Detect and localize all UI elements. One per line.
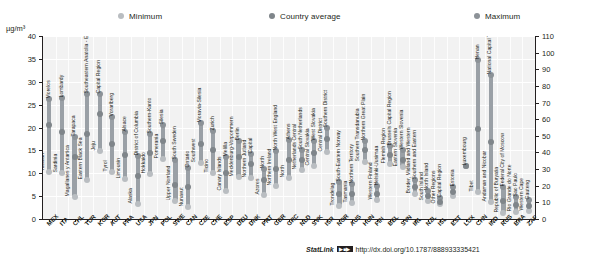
x-tick-mark [138, 219, 139, 222]
y-tick-mark-right [536, 186, 539, 187]
y-tick-mark-right [536, 119, 539, 120]
legend-label-maximum: Maximum [485, 12, 520, 21]
legend-dot-maximum [474, 13, 480, 19]
x-tick-mark [201, 219, 202, 222]
statlink-badge-icon: ▶■▶ [337, 246, 353, 252]
y-tick-mark-left [39, 219, 42, 220]
y-tick-mark-right [536, 69, 539, 70]
y-tick-label-left: 5 [14, 192, 36, 201]
legend-label-country-average: Country average [280, 12, 341, 21]
gridline [43, 105, 535, 106]
data-point-avg [349, 191, 355, 197]
x-tick-mark [327, 219, 328, 222]
x-tick-mark [503, 219, 504, 222]
legend-dot-minimum [118, 13, 124, 19]
y-tick-label-left: 10 [14, 169, 36, 178]
data-point-avg [488, 139, 494, 145]
data-point-avg [198, 141, 204, 147]
y-tick-mark-right [536, 103, 539, 104]
x-tick-mark [377, 219, 378, 222]
y-tick-label-left: 20 [14, 124, 36, 133]
y-tick-mark-left [39, 173, 42, 174]
y-tick-mark-left [39, 196, 42, 197]
x-tick-mark [188, 219, 189, 222]
data-point-min [261, 192, 267, 198]
y-tick-label-left: 15 [14, 146, 36, 155]
gridline [43, 59, 535, 60]
x-tick-mark [276, 219, 277, 222]
range-bar [98, 94, 102, 152]
x-tick-mark [478, 219, 479, 222]
data-point-min [122, 176, 128, 182]
y-tick-mark-right [536, 53, 539, 54]
data-point-min [160, 156, 166, 162]
x-tick-mark [403, 219, 404, 222]
data-point-avg [160, 138, 166, 144]
y-tick-label-left: 35 [14, 55, 36, 64]
data-point-avg [475, 126, 481, 132]
x-tick-mark [226, 219, 227, 222]
data-point-avg [362, 147, 368, 153]
data-point-avg [210, 147, 216, 153]
x-tick-mark [415, 219, 416, 222]
x-tick-mark [150, 219, 151, 222]
band-separator [220, 36, 221, 219]
y-tick-mark-right [536, 36, 539, 37]
y-tick-label-right: 90 [542, 65, 566, 74]
data-point-min [349, 200, 355, 206]
band-separator [106, 36, 107, 219]
y-tick-mark-right [536, 152, 539, 153]
data-point-avg [248, 161, 254, 167]
legend-item-maximum: Maximum [474, 12, 520, 21]
y-tick-mark-right [536, 169, 539, 170]
band-separator [459, 36, 460, 219]
y-tick-label-right: 110 [542, 32, 566, 41]
x-tick-mark [125, 219, 126, 222]
y-tick-mark-left [39, 105, 42, 106]
x-tick-mark [302, 219, 303, 222]
statlink-url[interactable]: http://dx.doi.org/10.1787/888933335421 [356, 246, 480, 253]
y-tick-label-right: 30 [542, 165, 566, 174]
x-tick-mark [352, 219, 353, 222]
y-tick-label-right: 70 [542, 99, 566, 108]
gridline [43, 82, 535, 83]
data-point-min [311, 163, 317, 169]
data-point-min [84, 177, 90, 183]
data-point-min [336, 203, 342, 209]
data-point-min [185, 204, 191, 210]
y-tick-mark-right [536, 86, 539, 87]
x-tick-mark [453, 219, 454, 222]
x-tick-mark [163, 219, 164, 222]
statlink-label: StatLink [306, 246, 334, 253]
x-tick-mark [314, 219, 315, 222]
data-point-avg [437, 199, 443, 205]
band-separator [245, 36, 246, 219]
x-tick-mark [75, 219, 76, 222]
x-tick-mark [100, 219, 101, 222]
data-point-avg [122, 152, 128, 158]
data-point-avg [97, 111, 103, 117]
data-point-avg [135, 173, 141, 179]
data-point-min [299, 167, 305, 173]
x-tick-mark [516, 219, 517, 222]
plot-area: MorelosYucatanLombardySardiniaTarapacaMa… [43, 36, 535, 219]
x-tick-mark [365, 219, 366, 222]
data-point-min [324, 149, 330, 155]
x-tick-mark [491, 219, 492, 222]
y-tick-label-left: 30 [14, 78, 36, 87]
legend-dot-country-average [269, 13, 275, 19]
x-tick-mark [428, 219, 429, 222]
gridline [43, 196, 535, 197]
x-tick-mark [466, 219, 467, 222]
band-separator [194, 36, 195, 219]
data-point-min [72, 194, 78, 200]
y-tick-mark-left [39, 59, 42, 60]
x-tick-mark [62, 219, 63, 222]
x-tick-mark [239, 219, 240, 222]
y-axis-left-line [42, 36, 43, 219]
y-tick-mark-left [39, 150, 42, 151]
data-point-avg [526, 203, 532, 209]
y-tick-label-left: 0 [14, 215, 36, 224]
y-tick-label-left: 25 [14, 101, 36, 110]
x-tick-mark [339, 219, 340, 222]
